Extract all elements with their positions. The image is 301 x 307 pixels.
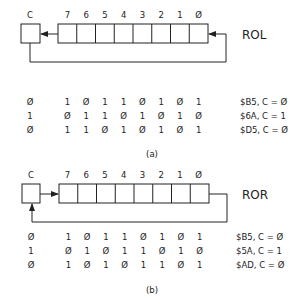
bit-value: Ø xyxy=(195,111,202,121)
table-row: 1 Ø 1 1 Ø 1 Ø 1 Ø $6A, C = 1 xyxy=(27,111,286,121)
bit-value: 1 xyxy=(103,260,108,270)
caption-b: (b) xyxy=(146,285,158,295)
bit-value: 1 xyxy=(65,125,70,135)
bit-value: 1 xyxy=(122,246,127,256)
rotate-diagrams: C 7 6 5 4 3 2 1 Ø ROL Ø xyxy=(0,0,301,307)
bit-value: Ø xyxy=(84,260,91,270)
carry-value: Ø xyxy=(27,97,34,107)
bit-value: Ø xyxy=(65,246,72,256)
ror-diagram: C 7 6 5 4 3 2 1 Ø ROR Ø xyxy=(22,170,285,295)
ror-bit-label: 7 xyxy=(65,170,70,180)
bit-value: Ø xyxy=(159,246,166,256)
ror-bit-label: 5 xyxy=(102,170,107,180)
ror-bit-labels: 7 6 5 4 3 2 1 Ø xyxy=(65,170,203,180)
bit-value: 1 xyxy=(121,97,126,107)
bit-value: Ø xyxy=(103,246,110,256)
bit-value: 1 xyxy=(141,246,146,256)
bit-value: 1 xyxy=(121,125,126,135)
rol-bit-label: 1 xyxy=(177,10,182,20)
bit-value: Ø xyxy=(178,232,185,242)
ror-carry-label: C xyxy=(28,170,34,180)
rol-bit-label: 5 xyxy=(102,10,107,20)
bit-value: Ø xyxy=(158,111,165,121)
rol-bit-label: 4 xyxy=(121,10,126,20)
carry-value: Ø xyxy=(27,125,34,135)
result-value: $AD, C = Ø xyxy=(236,260,285,270)
result-value: $6A, C = 1 xyxy=(240,111,286,121)
ror-carry-box xyxy=(22,184,40,203)
table-row: 1 Ø 1 Ø 1 1 Ø 1 Ø $5A, C = 1 xyxy=(28,246,282,256)
bit-value: Ø xyxy=(84,232,91,242)
rol-bit-label: 3 xyxy=(140,10,145,20)
bit-value: Ø xyxy=(64,111,71,121)
bit-value: Ø xyxy=(120,111,127,121)
bit-value: Ø xyxy=(177,125,184,135)
bit-value: 1 xyxy=(141,260,146,270)
bit-value: Ø xyxy=(139,97,146,107)
rol-op-label: ROL xyxy=(242,28,267,42)
bit-value: Ø xyxy=(102,125,109,135)
bit-value: Ø xyxy=(177,97,184,107)
ror-bit-label: 2 xyxy=(158,170,163,180)
rol-carry-box xyxy=(21,24,40,43)
ror-register xyxy=(59,184,209,203)
bit-value: 1 xyxy=(83,125,88,135)
bit-value: Ø xyxy=(196,246,203,256)
bit-value: 1 xyxy=(84,246,89,256)
carry-value: 1 xyxy=(28,246,33,256)
bit-value: 1 xyxy=(83,111,88,121)
rol-diagram: C 7 6 5 4 3 2 1 Ø ROL Ø xyxy=(21,10,288,159)
carry-value: Ø xyxy=(28,260,35,270)
bit-value: Ø xyxy=(121,260,128,270)
rol-bit-label: 2 xyxy=(158,10,163,20)
carry-value: Ø xyxy=(28,232,35,242)
result-value: $5A, C = 1 xyxy=(236,246,282,256)
ror-loop-arrow xyxy=(32,194,227,222)
bit-value: 1 xyxy=(103,232,108,242)
rol-bit-label: Ø xyxy=(195,10,202,20)
bit-value: 1 xyxy=(178,246,183,256)
bit-value: 1 xyxy=(197,260,202,270)
bit-value: 1 xyxy=(102,97,107,107)
table-row: Ø 1 1 Ø 1 Ø 1 Ø 1 $D5, C = Ø xyxy=(27,125,289,135)
rol-loop-arrow xyxy=(30,34,226,62)
bit-value: 1 xyxy=(66,232,71,242)
bit-value: 1 xyxy=(197,232,202,242)
ror-bit-label: 6 xyxy=(83,170,88,180)
ror-bit-label: 4 xyxy=(121,170,126,180)
ror-rows: Ø 1 Ø 1 1 Ø 1 Ø 1 $B5, C = Ø 1 Ø 1 Ø 1 1… xyxy=(28,232,285,270)
bit-value: 1 xyxy=(122,232,127,242)
bit-value: 1 xyxy=(102,111,107,121)
result-value: $D5, C = Ø xyxy=(240,125,288,135)
ror-bit-label: 1 xyxy=(177,170,182,180)
bit-value: Ø xyxy=(178,260,185,270)
ror-bit-label: 3 xyxy=(140,170,145,180)
rol-rows: Ø 1 Ø 1 1 Ø 1 Ø 1 $B5, C = Ø 1 Ø 1 1 Ø 1… xyxy=(27,97,289,135)
ror-op-label: ROR xyxy=(242,188,268,202)
ror-bit-label: Ø xyxy=(195,170,202,180)
bit-value: 1 xyxy=(159,232,164,242)
caption-a: (a) xyxy=(146,149,158,159)
table-row: Ø 1 Ø 1 Ø 1 1 Ø 1 $AD, C = Ø xyxy=(28,260,285,270)
bit-value: 1 xyxy=(65,97,70,107)
bit-value: 1 xyxy=(66,260,71,270)
rol-bit-labels: 7 6 5 4 3 2 1 Ø xyxy=(65,10,203,20)
result-value: $B5, C = Ø xyxy=(240,97,288,107)
bit-value: Ø xyxy=(139,125,146,135)
carry-value: 1 xyxy=(27,111,32,121)
bit-value: 1 xyxy=(196,97,201,107)
table-row: Ø 1 Ø 1 1 Ø 1 Ø 1 $B5, C = Ø xyxy=(28,232,284,242)
result-value: $B5, C = Ø xyxy=(236,232,284,242)
rol-carry-label: C xyxy=(27,10,33,20)
bit-value: Ø xyxy=(140,232,147,242)
bit-value: 1 xyxy=(158,125,163,135)
bit-value: 1 xyxy=(177,111,182,121)
bit-value: 1 xyxy=(159,260,164,270)
bit-value: 1 xyxy=(140,111,145,121)
bit-value: Ø xyxy=(83,97,90,107)
bit-value: 1 xyxy=(158,97,163,107)
rol-bit-label: 6 xyxy=(83,10,88,20)
table-row: Ø 1 Ø 1 1 Ø 1 Ø 1 $B5, C = Ø xyxy=(27,97,288,107)
rol-register xyxy=(58,24,208,43)
rol-bit-label: 7 xyxy=(65,10,70,20)
